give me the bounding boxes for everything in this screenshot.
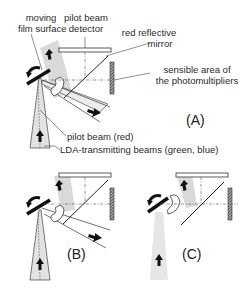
reflected-lda-beams-a	[42, 80, 108, 112]
photomultiplier-c	[228, 188, 232, 220]
lda-beam-cone-c	[150, 212, 168, 280]
label-line: mirror	[118, 38, 180, 49]
eye-icon	[51, 205, 64, 222]
label-line: the photomultipliers	[150, 75, 244, 86]
label-moving-film-surface: moving film surface	[18, 12, 64, 34]
panel-label-b: (B)	[67, 246, 86, 262]
eye-icon	[167, 195, 180, 214]
label-line: red reflective	[118, 27, 180, 38]
photomultiplier-a	[110, 62, 114, 94]
pilot-beam-detector-b	[59, 173, 111, 177]
panel-b	[26, 173, 114, 280]
label-line: detector	[60, 23, 112, 34]
label-pilot-beam: pilot beam (red)	[67, 131, 134, 142]
label-lda-beams: LDA-transmitting beams (green, blue)	[60, 144, 218, 155]
label-line: sensible area of	[150, 64, 244, 75]
label-line: pilot beam	[60, 12, 112, 23]
label-sensible-area: sensible area of the photomultipliers	[150, 64, 244, 86]
panel-label-c: (C)	[182, 246, 201, 262]
label-pilot-beam-detector: pilot beam detector	[60, 12, 112, 34]
panel-label-a: (A)	[186, 112, 205, 128]
pilot-beam-detector-c	[176, 173, 228, 177]
label-red-reflective-mirror: red reflective mirror	[118, 27, 180, 49]
label-line: film surface	[18, 23, 64, 34]
photomultiplier-b	[110, 188, 114, 220]
panel-c	[147, 173, 238, 280]
red-reflective-mirror-a	[64, 56, 108, 98]
label-line: moving	[18, 12, 64, 23]
pilot-beam-detector-a	[59, 48, 111, 52]
